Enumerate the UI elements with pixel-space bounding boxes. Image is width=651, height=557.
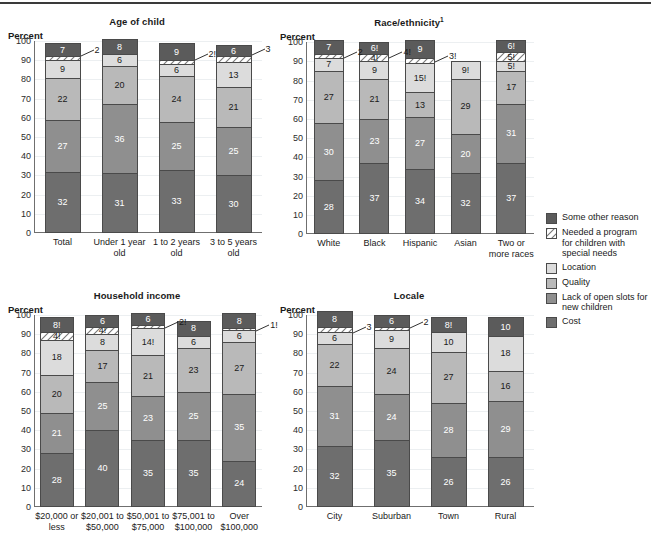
bar-segment-lack_of_slots[interactable]: 30 <box>314 123 344 181</box>
bar-segment-cost[interactable]: 30 <box>216 175 252 233</box>
bar-segment-lack_of_slots[interactable]: 20 <box>451 134 481 172</box>
bar-segment-other[interactable]: 8 <box>222 313 256 328</box>
bar-segment-cost[interactable]: 34 <box>405 169 435 234</box>
bar-segment-special_needs[interactable]: 2! <box>159 60 195 64</box>
bar-segment-lack_of_slots[interactable]: 23 <box>131 396 165 440</box>
stacked-bar[interactable]: 33252462!9 <box>159 43 195 233</box>
bar-segment-cost[interactable]: 28 <box>40 453 74 507</box>
stacked-bar[interactable]: 3025211336 <box>216 45 252 233</box>
bar-segment-location[interactable]: 18 <box>40 340 74 375</box>
bar-segment-location[interactable]: 9 <box>359 61 389 78</box>
bar-segment-other[interactable]: 8 <box>102 39 138 54</box>
bar-segment-special_needs[interactable]: 3 <box>317 327 353 333</box>
stacked-bar[interactable]: 262827108! <box>431 317 467 507</box>
bar-segment-cost[interactable]: 32 <box>317 446 353 507</box>
stacked-bar[interactable]: 31362068 <box>102 39 138 233</box>
bar-segment-quality[interactable]: 13 <box>405 92 435 117</box>
bar-segment-location[interactable]: 6 <box>102 54 138 66</box>
bar-segment-other[interactable]: 6 <box>374 315 410 327</box>
bar-segment-lack_of_slots[interactable]: 31 <box>496 104 526 164</box>
bar-segment-lack_of_slots[interactable]: 25 <box>159 122 195 170</box>
bar-segment-quality[interactable]: 17 <box>496 71 526 104</box>
stacked-bar[interactable]: 34271315!3!9 <box>405 40 435 234</box>
bar-segment-lack_of_slots[interactable]: 21 <box>40 413 74 453</box>
bar-segment-special_needs[interactable]: 1! <box>222 328 256 330</box>
bar-segment-location[interactable]: 8 <box>85 334 119 349</box>
stacked-bar[interactable]: 3220299! <box>451 61 481 234</box>
bar-segment-lack_of_slots[interactable]: 25 <box>177 392 211 440</box>
bar-segment-quality[interactable]: 21 <box>131 355 165 395</box>
bar-segment-other[interactable]: 6 <box>85 315 119 327</box>
bar-segment-location[interactable]: 9 <box>374 330 410 347</box>
bar-segment-cost[interactable]: 37 <box>496 163 526 234</box>
legend-item-quality[interactable]: Quality <box>546 277 648 289</box>
bar-segment-quality[interactable]: 16 <box>488 371 524 402</box>
bar-segment-cost[interactable]: 35 <box>374 440 410 507</box>
bar-segment-cost[interactable]: 32 <box>45 172 81 233</box>
stacked-bar[interactable]: 35232114!2!6 <box>131 313 165 507</box>
bar-segment-location[interactable]: 13 <box>216 62 252 87</box>
bar-segment-lack_of_slots[interactable]: 29 <box>488 401 524 457</box>
bar-segment-location[interactable]: 7 <box>314 58 344 71</box>
bar-segment-lack_of_slots[interactable]: 27 <box>405 117 435 169</box>
legend-item-special_needs[interactable]: Needed a program for children with speci… <box>546 227 648 259</box>
bar-segment-lack_of_slots[interactable]: 35 <box>222 394 256 461</box>
bar-segment-special_needs[interactable]: 4! <box>40 332 74 340</box>
bar-segment-location[interactable]: 6 <box>177 336 211 348</box>
bar-segment-cost[interactable]: 26 <box>431 457 467 507</box>
bar-segment-other[interactable]: 10 <box>488 317 524 336</box>
bar-segment-other[interactable]: 7 <box>314 40 344 53</box>
bar-segment-special_needs[interactable]: 2 <box>45 56 81 60</box>
bar-segment-special_needs[interactable]: 3! <box>405 58 435 64</box>
bar-segment-quality[interactable]: 27 <box>314 71 344 123</box>
bar-segment-location[interactable]: 15! <box>405 63 435 92</box>
bar-segment-location[interactable]: 18 <box>488 336 524 371</box>
bar-segment-location[interactable]: 14! <box>131 328 165 355</box>
bar-segment-other[interactable]: 7 <box>45 43 81 56</box>
bar-segment-location[interactable]: 9! <box>451 61 481 78</box>
bar-segment-quality[interactable]: 20 <box>102 66 138 104</box>
bar-segment-quality[interactable]: 27 <box>222 342 256 394</box>
legend-item-location[interactable]: Location <box>546 262 648 274</box>
bar-segment-quality[interactable]: 20 <box>40 375 74 413</box>
bar-segment-special_needs[interactable]: 4! <box>85 327 119 335</box>
bar-segment-lack_of_slots[interactable]: 27 <box>45 120 81 172</box>
bar-segment-quality[interactable]: 21 <box>359 79 389 119</box>
bar-segment-lack_of_slots[interactable]: 25 <box>85 382 119 430</box>
bar-segment-location[interactable]: 9 <box>45 60 81 77</box>
bar-segment-special_needs[interactable]: 2 <box>314 54 344 58</box>
bar-segment-cost[interactable]: 31 <box>102 173 138 233</box>
stacked-bar[interactable]: 37232194!6! <box>359 42 389 234</box>
bar-segment-location[interactable]: 5! <box>496 61 526 71</box>
bar-segment-cost[interactable]: 28 <box>314 180 344 234</box>
stacked-bar[interactable]: 283027727 <box>314 40 344 234</box>
bar-segment-other[interactable]: 9 <box>159 43 195 60</box>
stacked-bar[interactable]: 282120184!8! <box>40 317 74 507</box>
bar-segment-lack_of_slots[interactable]: 24 <box>374 394 410 440</box>
bar-segment-cost[interactable]: 40 <box>85 430 119 507</box>
stacked-bar[interactable]: 323122638 <box>317 311 353 507</box>
bar-segment-quality[interactable]: 22 <box>45 78 81 120</box>
bar-segment-cost[interactable]: 24 <box>222 461 256 507</box>
bar-segment-other[interactable]: 6 <box>216 45 252 57</box>
bar-segment-cost[interactable]: 33 <box>159 170 195 233</box>
bar-segment-cost[interactable]: 35 <box>177 440 211 507</box>
bar-segment-location[interactable]: 10 <box>431 332 467 351</box>
bar-segment-other[interactable]: 6! <box>359 42 389 54</box>
stacked-bar[interactable]: 35252368 <box>177 321 211 507</box>
bar-segment-quality[interactable]: 21 <box>216 87 252 127</box>
bar-segment-quality[interactable]: 24 <box>159 76 195 122</box>
stacked-bar[interactable]: 322722927 <box>45 43 81 233</box>
bar-segment-quality[interactable]: 22 <box>317 344 353 386</box>
bar-segment-quality[interactable]: 24 <box>374 348 410 394</box>
stacked-bar[interactable]: 24352761!8 <box>222 313 256 507</box>
bar-segment-lack_of_slots[interactable]: 23 <box>359 119 389 163</box>
bar-segment-other[interactable]: 8! <box>40 317 74 332</box>
stacked-bar[interactable]: 2629161810 <box>488 317 524 507</box>
legend-item-other[interactable]: Some other reason <box>546 212 648 224</box>
bar-segment-quality[interactable]: 17 <box>85 350 119 383</box>
bar-segment-lack_of_slots[interactable]: 36 <box>102 104 138 173</box>
bar-segment-other[interactable]: 6 <box>131 313 165 325</box>
bar-segment-cost[interactable]: 32 <box>451 173 481 234</box>
bar-segment-lack_of_slots[interactable]: 31 <box>317 386 353 446</box>
